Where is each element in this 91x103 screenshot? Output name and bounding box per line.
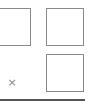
thumbnail-tile-right-bottom[interactable] bbox=[46, 54, 84, 92]
thumbnail-tile-right-top[interactable] bbox=[46, 8, 84, 46]
close-icon[interactable]: × bbox=[7, 78, 17, 88]
bottom-divider bbox=[0, 99, 85, 101]
thumbnail-tile-left[interactable] bbox=[0, 8, 31, 46]
